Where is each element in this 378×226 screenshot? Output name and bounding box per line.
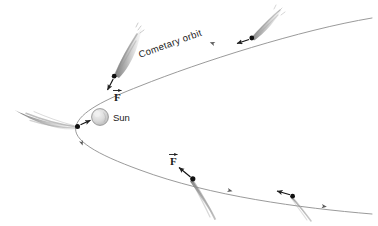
comet-tail-streak-a bbox=[293, 198, 311, 222]
force-label-upper-group: F bbox=[113, 91, 122, 104]
direction-arrow-4 bbox=[321, 204, 327, 209]
comet-nucleus bbox=[75, 124, 80, 129]
comet-force-arrow[interactable] bbox=[237, 40, 249, 44]
cometary-orbit-figure: F F bbox=[0, 0, 378, 226]
comet-tail-streak-b bbox=[292, 198, 308, 220]
comet-outbound-lower: F bbox=[169, 155, 217, 221]
comet-nucleus bbox=[112, 74, 117, 79]
comet-tail-streak-b bbox=[254, 15, 279, 38]
comet-force-arrow[interactable] bbox=[81, 120, 91, 125]
sun-highlight bbox=[94, 111, 100, 117]
comet-outbound-upper bbox=[237, 5, 285, 44]
cometary-orbit-label: Cometary orbit bbox=[137, 27, 203, 60]
direction-arrow-3 bbox=[227, 188, 233, 193]
comet-force-arrow[interactable] bbox=[277, 191, 290, 195]
comet-force-arrow[interactable] bbox=[179, 168, 191, 178]
comet-tail-streak-a bbox=[253, 10, 281, 37]
comet-tail-streak-a bbox=[193, 180, 215, 219]
comet-nucleus bbox=[290, 194, 295, 199]
force-label-upper: F bbox=[114, 91, 121, 103]
comet-tail-streak-b bbox=[116, 41, 136, 76]
comet-force-arrow[interactable] bbox=[108, 79, 114, 90]
sun-group bbox=[92, 109, 109, 126]
comet-nucleus bbox=[249, 36, 254, 41]
comet-nucleus bbox=[190, 176, 195, 181]
comet-far-lower bbox=[277, 191, 312, 222]
orbit-direction-arrows bbox=[79, 40, 327, 209]
comet-inbound-upper: F bbox=[108, 23, 145, 103]
sun-label: Sun bbox=[113, 112, 130, 123]
comet-tail-streak-b bbox=[191, 181, 210, 217]
force-label-lower: F bbox=[170, 155, 177, 167]
direction-arrow-2 bbox=[209, 40, 215, 46]
force-label-lower-group: F bbox=[169, 155, 178, 168]
diagram-canvas: F F bbox=[0, 0, 378, 226]
